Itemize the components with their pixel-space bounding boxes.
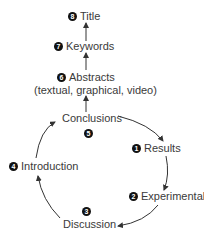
node-title: 8Title (68, 10, 100, 22)
node-results: 1Results (132, 142, 181, 154)
node-label: Experimental (141, 190, 204, 202)
node-conclusions: Conclusions (62, 112, 122, 124)
node-introduction: 4Introduction (9, 160, 78, 172)
badge-5: 5 (84, 129, 93, 138)
arrow-experimental-discussion (118, 205, 158, 226)
badge-6: 6 (57, 73, 66, 82)
badge-2: 2 (129, 192, 138, 201)
badge-7: 7 (54, 42, 63, 51)
badge-3: 3 (82, 207, 91, 216)
badge-4: 4 (9, 162, 18, 171)
node-label: Introduction (21, 160, 78, 172)
node-label: Abstracts (69, 71, 115, 83)
arrow-discussion-introduction (38, 176, 60, 218)
badge-1: 1 (132, 144, 141, 153)
node-keywords: 7Keywords (54, 40, 114, 52)
node-label: Title (80, 10, 100, 22)
node-experimental: 2Experimental (129, 190, 204, 202)
node-abstracts-sublabel: (textual, graphical, video) (34, 84, 157, 96)
writing-order-diagram: 8Title 7Keywords 6Abstracts (textual, gr… (0, 0, 204, 237)
badge-8: 8 (68, 12, 77, 21)
node-discussion: Discussion (63, 218, 116, 230)
node-abstracts: 6Abstracts (57, 71, 115, 83)
arrow-introduction-conclusions (36, 122, 55, 158)
node-label: Keywords (66, 40, 114, 52)
node-label: Results (144, 142, 181, 154)
arrow-conclusions-results (118, 116, 163, 141)
arrow-results-experimental (164, 156, 168, 190)
